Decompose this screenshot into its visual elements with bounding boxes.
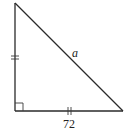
triangle-diagram: a 72: [0, 0, 130, 136]
hypotenuse-label: a: [72, 46, 78, 60]
hypotenuse: [15, 3, 123, 111]
right-angle-marker: [15, 103, 23, 111]
base-label: 72: [63, 117, 75, 131]
